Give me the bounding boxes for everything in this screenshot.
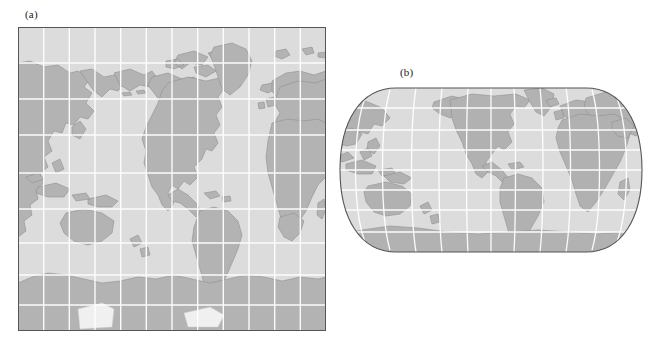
map-projection-figure: (a) xyxy=(0,0,662,343)
land-british-isles xyxy=(554,110,564,120)
panel-b-label: (b) xyxy=(400,66,413,78)
eckert-map-svg xyxy=(338,86,644,254)
panel-a-label: (a) xyxy=(25,8,38,20)
panel-b-pseudocylindrical-map xyxy=(338,86,644,254)
panel-a-mercator-map xyxy=(18,27,326,331)
mercator-map-svg xyxy=(18,27,326,331)
